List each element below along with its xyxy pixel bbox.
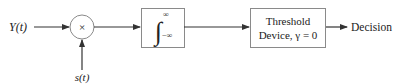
block-diagram: Y(t) × s(t) ∫ ∞ −∞ Threshold Device, γ =…: [0, 0, 408, 84]
input-label: Y(t): [9, 20, 27, 34]
threshold-line2: Device, γ = 0: [259, 29, 318, 41]
threshold-line1: Threshold: [266, 15, 311, 27]
output-label: Decision: [351, 21, 392, 33]
threshold-device-block: Threshold Device, γ = 0: [251, 9, 326, 48]
multiply-icon: ×: [79, 21, 85, 33]
integral-lower-limit: −∞: [162, 31, 173, 40]
integral-upper-limit: ∞: [163, 10, 169, 19]
integrator-block: ∫ ∞ −∞: [142, 9, 185, 48]
multiplier-node: ×: [70, 15, 94, 39]
reference-label: s(t): [75, 71, 90, 84]
